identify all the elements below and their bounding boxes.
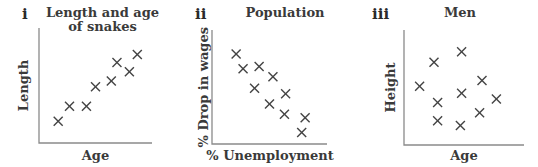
x-marker-icon: [457, 89, 466, 98]
x-marker-icon: [457, 47, 466, 56]
x-marker-icon: [478, 76, 487, 85]
scatter-plot: [0, 0, 538, 167]
x-marker-icon: [430, 58, 439, 67]
x-marker-icon: [492, 95, 501, 104]
x-marker-icon: [475, 108, 484, 117]
x-axis-label: Age: [404, 148, 524, 163]
axes: [404, 30, 524, 145]
x-marker-icon: [433, 116, 442, 125]
x-marker-icon: [415, 82, 424, 91]
x-marker-icon: [433, 98, 442, 107]
x-marker-icon: [456, 121, 465, 130]
chart-panel-iii: iii Men Height Age: [0, 0, 538, 167]
